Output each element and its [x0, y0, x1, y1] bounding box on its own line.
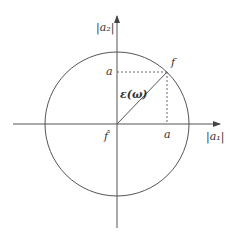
epsilon-label: ε(ω)	[120, 88, 148, 101]
x-axis-label: |a₁|	[206, 130, 224, 144]
point-f-hat-label: f̂	[103, 130, 110, 143]
point-f-label: f	[170, 56, 177, 69]
circle-diagram: |a₂| |a₁| f f̂ ε(ω) a a	[0, 0, 231, 242]
a-vertical-label: a	[106, 65, 113, 78]
a-horizontal-label: a	[164, 128, 171, 141]
y-axis-label: |a₂|	[96, 21, 114, 35]
